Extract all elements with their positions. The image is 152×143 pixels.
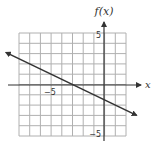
x-axis-label: x — [145, 79, 151, 90]
y-tick-label-top: 5 — [96, 31, 101, 40]
x-tick-label-left: −5 — [44, 88, 56, 97]
y-axis-label: f(x) — [94, 5, 114, 18]
y-tick-label-bottom: −5 — [89, 130, 101, 139]
coordinate-graph: f(x) x 5 −5 −5 — [0, 0, 152, 143]
